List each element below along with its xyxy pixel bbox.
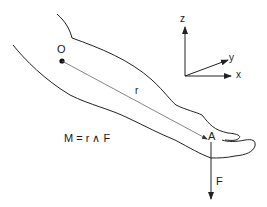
y-axis-label: y xyxy=(229,53,234,63)
coordinate-axes xyxy=(185,27,231,76)
force-f-label: F xyxy=(216,176,223,187)
vector-r-label: r xyxy=(135,86,138,96)
diagram-canvas xyxy=(0,0,267,207)
y-axis xyxy=(185,60,228,76)
z-axis-label: z xyxy=(180,14,185,24)
limb-lower-outline xyxy=(13,45,211,158)
point-o-label: O xyxy=(57,44,66,55)
thumb-fold-outline xyxy=(211,140,255,158)
x-axis-label: x xyxy=(236,70,241,80)
moment-equation: M = r ∧ F xyxy=(64,133,110,144)
limb-upper-outline xyxy=(57,14,240,140)
point-a-label: A xyxy=(208,131,215,142)
moment-diagram: O r A F M = r ∧ F z y x xyxy=(0,0,267,207)
